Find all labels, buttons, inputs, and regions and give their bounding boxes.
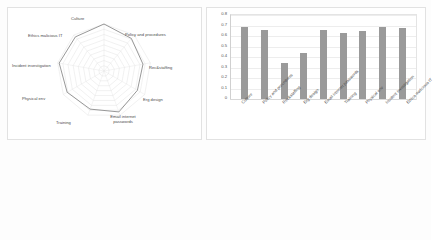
radar-axis-label-email-internet-passwords: Email internet passwords (106, 114, 140, 124)
figure-root: Culture Policy and procedures Rec&staffi… (0, 0, 431, 240)
y-axis-tick-label: 0.1 (207, 85, 229, 89)
bar-chart-panel: 0.80.70.60.50.40.30.20.10 CulturePolicy … (206, 7, 426, 140)
y-axis-tick-label: 0.6 (207, 33, 229, 37)
y-axis-tick-label: 0.5 (207, 43, 229, 47)
radar-spoke (74, 35, 104, 71)
bar (300, 53, 307, 99)
radar-axis-label-culture: Culture (71, 16, 84, 21)
y-axis-tick-label: 0.3 (207, 64, 229, 68)
radar-axis-label-incident-investigation: Incident investigation (12, 63, 51, 68)
radar-axis-label-policy-procedures: Policy and procedures (125, 32, 166, 37)
bar-chart-x-axis: CulturePolicy and proceduresRec&staffing… (230, 100, 415, 152)
radar-axis-label-rec-staffing: Rec&staffing (149, 65, 172, 70)
bar-chart-bars (231, 15, 416, 99)
bar (241, 27, 248, 99)
radar-spoke (58, 63, 104, 71)
radar-spoke (104, 35, 134, 71)
radar-spoke (63, 71, 104, 95)
y-axis-tick-label: 0.7 (207, 22, 229, 26)
y-axis-tick-label: 0.2 (207, 75, 229, 79)
radar-axis-label-erg-design: Erg design (143, 97, 163, 102)
bar (320, 30, 327, 99)
bar (359, 31, 366, 99)
radar-series-polygon (59, 24, 143, 112)
y-axis-tick-label: 0.8 (207, 12, 229, 16)
bar-chart-plot-area (230, 14, 417, 100)
radar-chart-panel: Culture Policy and procedures Rec&staffi… (7, 7, 202, 140)
radar-axis-label-training: Training (56, 120, 71, 125)
bar (261, 30, 268, 99)
radar-plot-svg (8, 8, 201, 139)
radar-axis-label-physical-env: Physical env (22, 96, 45, 101)
radar-axis-label-ethics-malicious-it: Ethics malicious IT (28, 33, 63, 38)
radar-chart: Culture Policy and procedures Rec&staffi… (8, 8, 201, 139)
y-axis-tick-label: 0.4 (207, 54, 229, 58)
y-axis-tick-label: 0 (207, 96, 229, 100)
